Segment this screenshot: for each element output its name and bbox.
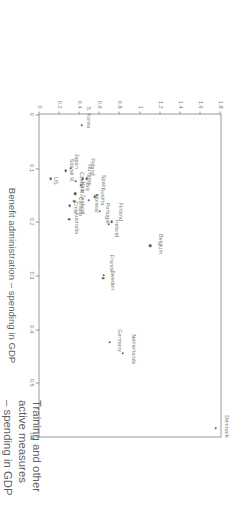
data-point-label: Denmark [223, 415, 228, 438]
data-point-label: Australia [73, 212, 78, 234]
y-axis-tick [99, 111, 100, 115]
y-axis-tick [119, 111, 120, 115]
plot-area: 00.10.20.30.40.50.600.20.40.60.811.21.41… [39, 114, 222, 438]
data-point-label: Slovak R. [68, 159, 73, 183]
x-axis-tick [36, 168, 40, 169]
y-axis-tick-label: 0.4 [77, 101, 83, 109]
y-axis-tick [159, 111, 160, 115]
y-axis-tick-label: 0 [37, 105, 43, 108]
data-point-label: US [52, 177, 57, 185]
x-axis-tick-label: 0.2 [29, 218, 35, 226]
data-point-label: Portugal [104, 203, 109, 224]
data-point [88, 199, 90, 201]
y-axis-tick [79, 111, 80, 115]
y-axis-tick [199, 111, 200, 115]
data-point-label: Ireland [113, 220, 118, 237]
data-point [214, 427, 216, 429]
x-axis-tick [36, 222, 40, 223]
data-point [74, 193, 76, 195]
y-axis-tick-label: 1.8 [218, 101, 224, 109]
x-axis-title: Benefit administration – spending in GDP [7, 114, 18, 438]
data-point [68, 205, 70, 207]
data-point [75, 180, 77, 182]
y-axis-tick [220, 111, 221, 115]
y-axis-tick [179, 111, 180, 115]
y-axis-tick [59, 111, 60, 115]
y-axis-tick-label: 1.6 [197, 101, 203, 109]
data-point-label: S. Korea [85, 106, 90, 128]
y-axis-caption-line-1: Training and other [30, 400, 44, 506]
y-axis-tick-label: 1.2 [157, 101, 163, 109]
x-axis-tick [36, 383, 40, 384]
y-axis-tick-label: 0.6 [97, 101, 103, 109]
data-point-label: Norway [93, 194, 98, 213]
data-point [109, 341, 111, 343]
chart-canvas: 00.10.20.30.40.50.600.20.40.60.811.21.41… [0, 0, 235, 506]
data-point [68, 218, 70, 220]
data-point-label: Netherlands [131, 334, 136, 364]
data-point-label: Belgium [157, 234, 162, 254]
y-axis-tick-label: 1 [137, 105, 143, 108]
y-axis-tick-label: 0.2 [57, 101, 63, 109]
data-point [102, 277, 104, 279]
x-axis-tick-label: 0.4 [29, 325, 35, 333]
y-axis-caption-line-3: – spending in GDP [1, 400, 15, 506]
y-axis-caption: Training and other active measures – spe… [44, 400, 164, 506]
y-axis-caption-line-2: active measures [15, 400, 29, 506]
x-axis-tick-label: 0.3 [29, 272, 35, 280]
y-axis-tick [39, 111, 40, 115]
data-point-label: Sweden [109, 270, 114, 290]
x-axis-tick [36, 276, 40, 277]
y-axis-tick [139, 111, 140, 115]
x-axis-tick [36, 115, 40, 116]
y-axis-tick-label: 0.8 [117, 101, 123, 109]
data-point [122, 352, 124, 354]
data-point-label: Finland [118, 203, 123, 221]
x-axis-tick-label: 0.1 [29, 164, 35, 172]
y-axis-tick-label: 1.4 [177, 101, 183, 109]
data-point [64, 170, 66, 172]
data-point [108, 223, 110, 225]
data-point-label: Austria [99, 188, 104, 205]
data-point [149, 245, 151, 247]
data-point [81, 124, 83, 126]
data-point-label: Germany [116, 329, 121, 352]
x-axis-tick-label: 0 [29, 113, 35, 116]
x-axis-tick-label: 0.5 [29, 379, 35, 387]
x-axis-tick [36, 329, 40, 330]
scatter-figure: 00.10.20.30.40.50.600.20.40.60.811.21.41… [5, 58, 230, 448]
